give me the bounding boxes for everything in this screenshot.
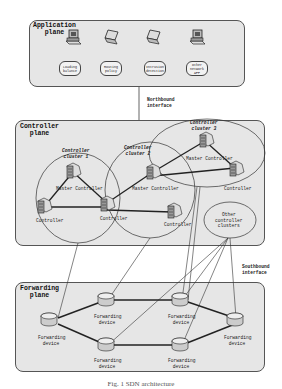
master-controller-2-label: Master Controller (132, 186, 179, 192)
forwarding-device-icon (227, 313, 243, 326)
forwarding-device-icon (172, 338, 188, 351)
cluster-1-label: Controller cluster 1 (62, 148, 90, 159)
controller-3a-label: Controller (224, 186, 252, 192)
master-controller-3-label: Master Controller (186, 156, 233, 162)
master-controller-2-icon (147, 164, 161, 179)
cluster-3-label: Controller cluster 3 (190, 120, 218, 131)
other-controller-clusters-label: Other controller clusters (215, 212, 243, 229)
forwarding-device-label: Forwarding device (224, 335, 250, 346)
forwarding-device-icon (98, 293, 114, 306)
controller-shared-label: Controller (100, 216, 128, 222)
forwarding-device-icon (98, 338, 114, 351)
controller-2b-label: Controller (164, 222, 192, 228)
forwarding-device-icon (41, 313, 57, 326)
controller-3a-icon (230, 161, 244, 176)
master-controller-3-icon (200, 132, 214, 147)
forwarding-device-icon (172, 293, 188, 306)
forwarding-device-label: Forwarding device (94, 358, 120, 369)
master-controller-1-icon (67, 163, 81, 178)
forwarding-device-label: Forwarding device (94, 314, 120, 325)
topology-graphics (0, 0, 282, 389)
southbound-interface-label: Southbound interface (242, 264, 270, 275)
cluster-2-label: Controller cluster 2 (124, 145, 152, 156)
master-controller-1-label: Master Controller (56, 186, 103, 192)
controller-1a-label: Controller (36, 218, 64, 224)
forwarding-device-label: Forwarding device (38, 335, 64, 346)
figure-caption: Fig. 1 SDN architecture (0, 380, 282, 388)
forwarding-device-label: Forwarding device (168, 314, 194, 325)
forwarding-device-label: Forwarding device (168, 358, 194, 369)
controller-2b-icon (168, 203, 182, 218)
